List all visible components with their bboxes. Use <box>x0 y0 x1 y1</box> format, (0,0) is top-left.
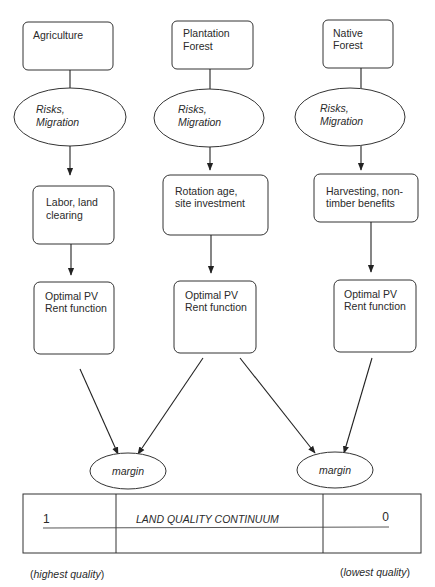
source-label: Forest <box>183 40 213 52</box>
result-label: Rent function <box>185 301 247 313</box>
decision-label: Harvesting, non- <box>326 185 404 197</box>
continuum-right-value: 0 <box>382 510 389 524</box>
result-label: Optimal PV <box>344 288 397 300</box>
factor-label: Migration <box>178 116 221 128</box>
column-plantation-forest: Plantation Forest Risks, Migration Rotat… <box>154 21 268 353</box>
arrow-plantation-to-margin <box>138 358 203 454</box>
margin-label: margin <box>319 464 351 476</box>
column-agriculture: Agriculture Risks, Migration Labor, land… <box>14 22 126 354</box>
land-use-diagram: Agriculture Risks, Migration Labor, land… <box>0 0 435 587</box>
continuum-title: LAND QUALITY CONTINUUM <box>136 513 279 525</box>
decision-label: site investment <box>175 197 245 209</box>
highest-quality-caption: (highest quality) <box>30 568 104 580</box>
margin-1: margin <box>90 453 166 489</box>
result-label: Rent function <box>45 302 107 314</box>
result-label: Optimal PV <box>185 289 238 301</box>
arrow-native-to-margin <box>344 358 372 453</box>
decision-label: clearing <box>46 209 83 221</box>
margin-2: margin <box>297 452 373 488</box>
source-label: Plantation <box>183 27 230 39</box>
source-label: Forest <box>333 39 363 51</box>
land-quality-continuum: 1 LAND QUALITY CONTINUUM 0 <box>23 494 421 553</box>
result-label: Optimal PV <box>45 290 98 302</box>
continuum-left-value: 1 <box>43 512 50 526</box>
factor-label: Risks, <box>178 103 207 115</box>
source-label: Agriculture <box>33 29 83 41</box>
column-native-forest: Native Forest Risks, Migration Harvestin… <box>295 20 418 352</box>
lowest-quality-caption: (lowest quality) <box>340 566 410 578</box>
factor-label: Risks, <box>36 103 65 115</box>
arrow-agriculture-to-margin <box>80 369 118 454</box>
decision-label: timber benefits <box>326 197 395 209</box>
factor-label: Migration <box>36 116 79 128</box>
decision-label: Labor, land <box>46 196 98 208</box>
decision-label: Rotation age, <box>175 185 237 197</box>
result-label: Rent function <box>344 300 406 312</box>
factor-label: Risks, <box>320 102 349 114</box>
margin-label: margin <box>112 465 144 477</box>
arrow-plantation-to-margin-2 <box>240 358 315 453</box>
factor-label: Migration <box>320 115 363 127</box>
source-label: Native <box>333 27 363 39</box>
